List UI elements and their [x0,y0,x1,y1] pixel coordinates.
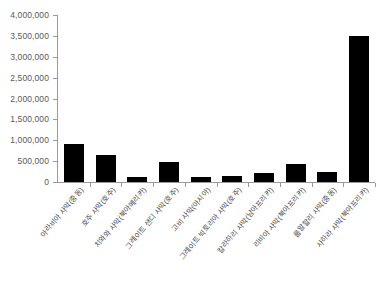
x-tick-mark [280,183,281,187]
bar [64,144,84,182]
y-tick-label: 500,000 [18,156,49,166]
x-category-label: 칼라하리 사막(남아프리카) [214,184,276,254]
bar [286,164,306,182]
x-tick-mark [375,183,376,187]
y-tick-mark [53,182,57,183]
x-category-label: 호주 사막(호주) [77,184,116,228]
y-tick-mark [53,140,57,141]
x-tick-mark [217,183,218,187]
y-tick-label: 2,500,000 [10,73,49,83]
y-tick-label: 3,000,000 [10,52,49,62]
x-category-label: 그레이트 샌디 사막(호주) [122,184,180,251]
y-tick-mark [53,161,57,162]
y-tick-label: 1,000,000 [10,135,49,145]
bar [349,36,369,182]
x-tick-mark [121,183,122,187]
bar [222,176,242,182]
x-category-label: 룹알할리 사막(중동) [290,184,338,238]
x-tick-mark [248,183,249,187]
x-category-label: 그레이트 빅토리아 사막(호주) [176,184,243,261]
x-category-label: 사하라 사막(북아프리카) [313,184,370,249]
x-category-label: 고비 사막(아시아) [168,184,212,233]
y-tick-mark [53,36,57,37]
y-axis: 0500,0001,000,0001,500,0002,000,0002,500… [0,0,57,286]
x-tick-mark [90,183,91,187]
bar [159,162,179,182]
y-tick-label: 0 [44,177,49,187]
x-category-label: 치와와 사막(북아메리카) [91,184,148,249]
y-tick-label: 4,000,000 [10,10,49,20]
x-tick-mark [185,183,186,187]
x-tick-mark [312,183,313,187]
y-tick-mark [53,99,57,100]
y-tick-label: 2,000,000 [10,94,49,104]
plot-area [58,15,375,182]
y-tick-mark [53,78,57,79]
bar [191,177,211,182]
x-category-label: 리비아 사막(북아프리카) [250,184,307,249]
y-tick-mark [53,57,57,58]
x-tick-mark [153,183,154,187]
bar-chart: 0500,0001,000,0001,500,0002,000,0002,500… [0,0,380,286]
y-tick-mark [53,119,57,120]
x-tick-mark [343,183,344,187]
y-tick-label: 3,500,000 [10,31,49,41]
bar [317,172,337,182]
bar [127,177,147,182]
bar [96,155,116,182]
bar [254,173,274,182]
y-tick-label: 1,500,000 [10,114,49,124]
y-tick-mark [53,15,57,16]
